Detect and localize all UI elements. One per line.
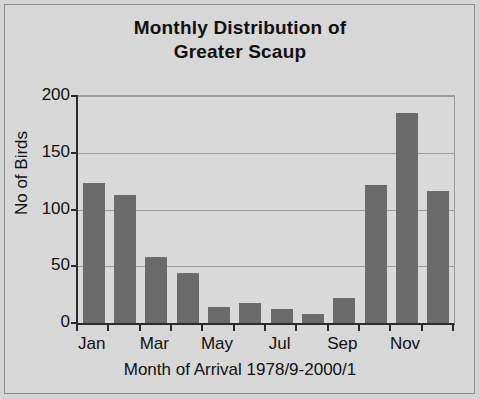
x-tick-mark (295, 323, 297, 331)
bar-may (208, 307, 230, 323)
x-tick-label-jul: Jul (249, 334, 311, 354)
x-tick-mark (264, 323, 266, 331)
bar-slot (329, 96, 360, 323)
bar-slot (141, 96, 172, 323)
bar-slot (172, 96, 203, 323)
x-tick-label-may: May (186, 334, 248, 354)
y-tick-mark (71, 152, 78, 154)
bar-mar (145, 257, 167, 323)
bar-slot (391, 96, 422, 323)
bar-slot (360, 96, 391, 323)
y-tick-label: 50 (24, 255, 70, 275)
plot-area (76, 95, 455, 325)
x-tick-mark (233, 323, 235, 331)
x-tick-mark (327, 323, 329, 331)
x-tick-label-jan: Jan (61, 334, 123, 354)
bar-dec (427, 191, 449, 323)
bar-aug (302, 314, 324, 323)
x-tick-mark (201, 323, 203, 331)
x-tick-mark (170, 323, 172, 331)
chart-title-line-2: Greater Scaup (0, 40, 480, 64)
bar-slot (235, 96, 266, 323)
bar-slot (266, 96, 297, 323)
x-tick-mark (358, 323, 360, 331)
bar-slot (203, 96, 234, 323)
y-tick-label: 0 (24, 312, 70, 332)
bar-jun (239, 303, 261, 323)
bar-oct (365, 185, 387, 323)
bar-slot (423, 96, 454, 323)
y-tick-mark (71, 265, 78, 267)
x-tick-mark (421, 323, 423, 331)
bar-slot (78, 96, 109, 323)
bar-series (78, 96, 454, 323)
chart-title-line-1: Monthly Distribution of (134, 17, 347, 38)
bar-feb (114, 195, 136, 323)
chart-title: Monthly Distribution of Greater Scaup (0, 16, 480, 64)
x-tick-mark (107, 323, 109, 331)
y-tick-label: 200 (24, 85, 70, 105)
y-tick-mark (71, 95, 78, 97)
x-tick-label-sep: Sep (311, 334, 373, 354)
chart-screenshot: Monthly Distribution of Greater Scaup No… (0, 0, 480, 399)
bar-jan (83, 183, 105, 323)
x-tick-mark (139, 323, 141, 331)
y-tick-label: 100 (24, 199, 70, 219)
x-axis-title: Month of Arrival 1978/9-2000/1 (0, 360, 480, 380)
bar-apr (177, 273, 199, 323)
x-tick-mark (389, 323, 391, 331)
bar-nov (396, 113, 418, 323)
x-tick-mark (76, 323, 78, 331)
y-axis-tick-labels: 050100150200 (14, 95, 70, 322)
bar-slot (109, 96, 140, 323)
y-tick-label: 150 (24, 142, 70, 162)
bar-slot (297, 96, 328, 323)
bar-sep (333, 298, 355, 323)
y-tick-mark (71, 209, 78, 211)
x-tick-label-nov: Nov (374, 334, 436, 354)
x-axis-tick-labels: JanMarMayJulSepNov (76, 334, 452, 358)
bar-jul (271, 309, 293, 323)
x-tick-label-mar: Mar (123, 334, 185, 354)
x-tick-mark (452, 323, 454, 331)
